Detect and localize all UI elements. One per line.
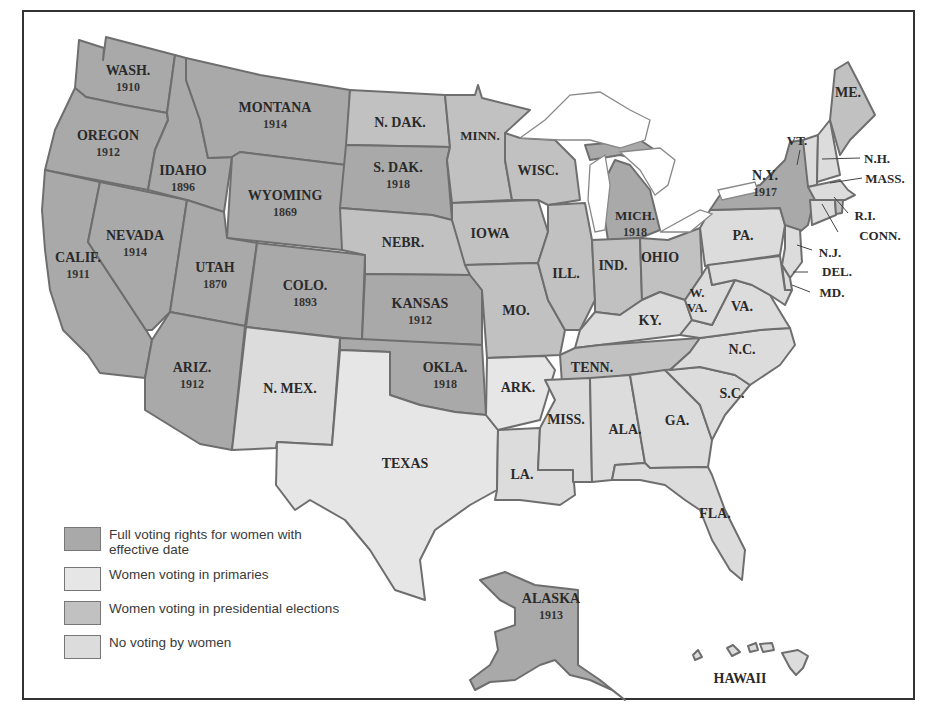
state-label-tn: TENN. [571,360,613,375]
state-year-ca: 1911 [66,267,89,281]
state-year-mi: 1918 [623,225,647,239]
legend-swatch-primaries [64,567,101,591]
state-year-co: 1893 [293,295,317,309]
state-year-id: 1896 [171,180,195,194]
state-label-mo: MO. [502,303,530,318]
state-year-wy: 1869 [273,205,297,219]
legend-swatch-none [64,635,101,659]
state-label-ut: UTAH [195,260,235,275]
state-label-mn: MINN. [460,128,499,143]
state-label-ms: MISS. [547,412,585,427]
map-legend: Full voting rights for women with effect… [64,527,349,669]
state-label-ny: N.Y. [752,168,778,183]
state-label-sd: S. DAK. [373,160,422,175]
state-label-ok: OKLA. [423,360,468,375]
state-label-ks: KANSAS [392,296,449,311]
state-label-az: ARIZ. [173,360,212,375]
state-label-tx: TEXAS [382,456,429,471]
state-label-ga: GA. [665,413,690,428]
state-year-ks: 1912 [408,313,432,327]
state-year-ut: 1870 [203,277,227,291]
state-label-ia: IOWA [471,226,511,241]
state-label-ne: NEBR. [382,235,424,250]
state-label-ar: ARK. [501,380,536,395]
legend-item-primaries: Women voting in primaries [64,567,349,591]
legend-label: Full voting rights for women with effect… [109,527,349,557]
state-label-mt: MONTANA [239,100,313,115]
state-label-or: OREGON [77,128,139,143]
state-label-ri: R.I. [855,208,876,223]
state-year-mt: 1914 [263,117,287,131]
state-label-hi: HAWAII [714,671,767,686]
legend-swatch-presidential [64,601,101,625]
state-year-nv: 1914 [123,245,147,259]
state-label-va: VA. [731,299,753,314]
state-label-ma: MASS. [865,171,904,186]
legend-item-full: Full voting rights for women with effect… [64,527,349,557]
state-label-la: LA. [511,467,534,482]
state-label-me: ME. [835,85,861,100]
state-label-nd: N. DAK. [374,115,426,130]
legend-label: Women voting in primaries [109,567,269,582]
state-indiana[interactable] [592,238,642,315]
state-year-ok: 1918 [433,377,457,391]
state-label-ak: ALASKA [522,591,581,606]
state-label-id: IDAHO [159,163,207,178]
state-label-mi: MICH. [615,208,655,223]
legend-item-none: No voting by women [64,635,349,659]
state-label-nh: N.H. [864,151,890,166]
state-label-md: MD. [820,285,845,300]
state-label-wv: W.VA. [687,285,707,315]
leader-md [792,285,810,292]
state-label-al: ALA. [608,422,641,437]
state-label-nj: N.J. [819,245,841,260]
state-label-wi: WISC. [518,163,559,178]
state-label-wy: WYOMING [248,188,323,203]
state-label-fl: FLA. [699,506,731,521]
state-label-vt: VT. [787,133,807,148]
state-label-ct: CONN. [859,228,901,243]
state-label-nc: N.C. [728,342,755,357]
state-label-il: ILL. [552,266,580,281]
state-maine[interactable] [830,62,875,155]
lake-superior [520,92,650,148]
state-label-ky: KY. [638,313,661,328]
state-label-in: IND. [598,258,627,273]
state-label-nm: N. MEX. [263,381,316,396]
legend-swatch-full [64,527,101,551]
state-label-co: COLO. [283,278,328,293]
state-year-sd: 1918 [386,177,410,191]
state-year-wa: 1910 [116,80,140,94]
state-year-az: 1912 [180,377,204,391]
state-label-sc: S.C. [720,386,745,401]
state-florida[interactable] [612,463,745,580]
state-label-nv: NEVADA [106,228,165,243]
state-label-oh: OHIO [641,250,679,265]
legend-label: No voting by women [109,635,231,650]
state-year-ak: 1913 [539,608,563,622]
legend-label: Women voting in presidential elections [109,601,339,616]
legend-item-presidential: Women voting in presidential elections [64,601,349,625]
state-label-pa: PA. [732,228,753,243]
state-year-or: 1912 [96,145,120,159]
lake-michigan [588,155,610,232]
state-label-de: DEL. [822,264,852,279]
state-label-wa: WASH. [106,63,151,78]
state-year-ny: 1917 [753,185,777,199]
state-label-ca: CALIF. [55,250,101,265]
